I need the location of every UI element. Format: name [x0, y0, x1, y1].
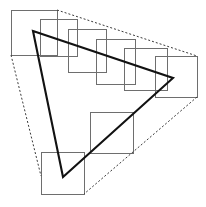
geometric-diagram — [0, 0, 206, 207]
figure-container — [0, 0, 206, 207]
figure-background — [0, 0, 206, 207]
